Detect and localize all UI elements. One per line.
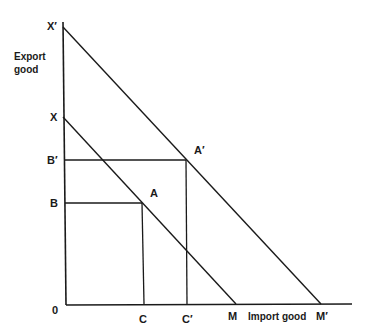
label-c: C [139, 313, 147, 325]
guide-a-prime-c-prime [186, 160, 187, 304]
line-x-prime-m-prime [63, 27, 321, 304]
label-origin: 0 [52, 304, 58, 316]
y-axis-label-line1: Export [14, 51, 46, 62]
guide-a-c [142, 203, 144, 304]
label-x: X [50, 111, 58, 123]
label-a: A [150, 187, 158, 199]
label-m-prime: M′ [316, 310, 328, 322]
label-b: B [50, 197, 58, 209]
trade-diagram: Export good Import good X′ X B′ B A A′ 0… [0, 0, 371, 335]
x-axis [66, 304, 352, 305]
x-axis-label: Import good [248, 311, 306, 322]
label-a-prime: A′ [194, 144, 205, 156]
y-axis [63, 22, 66, 305]
label-c-prime: C′ [182, 313, 193, 325]
label-x-prime: X′ [47, 20, 57, 32]
label-m: M [228, 310, 237, 322]
label-b-prime: B′ [47, 154, 58, 166]
line-x-m [63, 117, 236, 304]
y-axis-label-line2: good [14, 64, 38, 75]
